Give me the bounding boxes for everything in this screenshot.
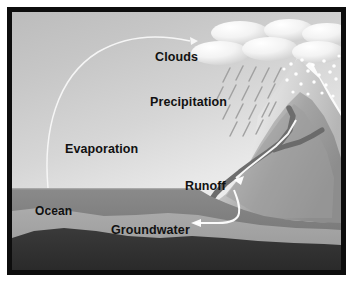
groundwater-arrow <box>195 190 239 223</box>
label-evaporation: Evaporation <box>65 142 138 156</box>
groundwater-arrowhead <box>191 219 201 227</box>
label-groundwater: Groundwater <box>111 223 190 237</box>
label-clouds: Clouds <box>155 50 198 64</box>
label-ocean: Ocean <box>35 204 72 218</box>
diagram-scene: Clouds Precipitation Evaporation Runoff … <box>12 12 341 270</box>
evaporation-arrowhead <box>190 37 198 45</box>
runoff-arrow <box>236 120 296 178</box>
label-precipitation: Precipitation <box>150 95 227 109</box>
picture-frame: Clouds Precipitation Evaporation Runoff … <box>7 7 346 275</box>
water-cycle-figure: Clouds Precipitation Evaporation Runoff … <box>0 0 353 282</box>
label-runoff: Runoff <box>185 179 226 193</box>
